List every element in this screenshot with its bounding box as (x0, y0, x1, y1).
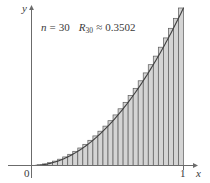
riemann-rectangle (138, 81, 143, 166)
riemann-rectangle (118, 109, 123, 166)
riemann-rectangle (133, 88, 138, 165)
riemann-rectangle (168, 28, 173, 165)
riemann-rectangle (173, 18, 178, 165)
riemann-rectangle (123, 102, 128, 165)
riemann-rectangle (163, 38, 168, 166)
riemann-rectangles (33, 8, 184, 166)
riemann-rectangle (158, 47, 163, 165)
riemann-rectangle (178, 8, 183, 166)
riemann-rectangle (143, 73, 148, 166)
riemann-rectangle (113, 115, 118, 166)
riemann-rectangle (103, 126, 108, 165)
riemann-rectangle (148, 65, 153, 166)
riemann-sum-figure: y x 0 1 n=30R30≈0.3502 (0, 0, 210, 183)
riemann-rectangle (98, 131, 103, 165)
riemann-rectangle (128, 96, 133, 166)
plot-canvas (0, 0, 210, 183)
riemann-rectangle (108, 121, 113, 166)
riemann-rectangle (153, 56, 158, 165)
